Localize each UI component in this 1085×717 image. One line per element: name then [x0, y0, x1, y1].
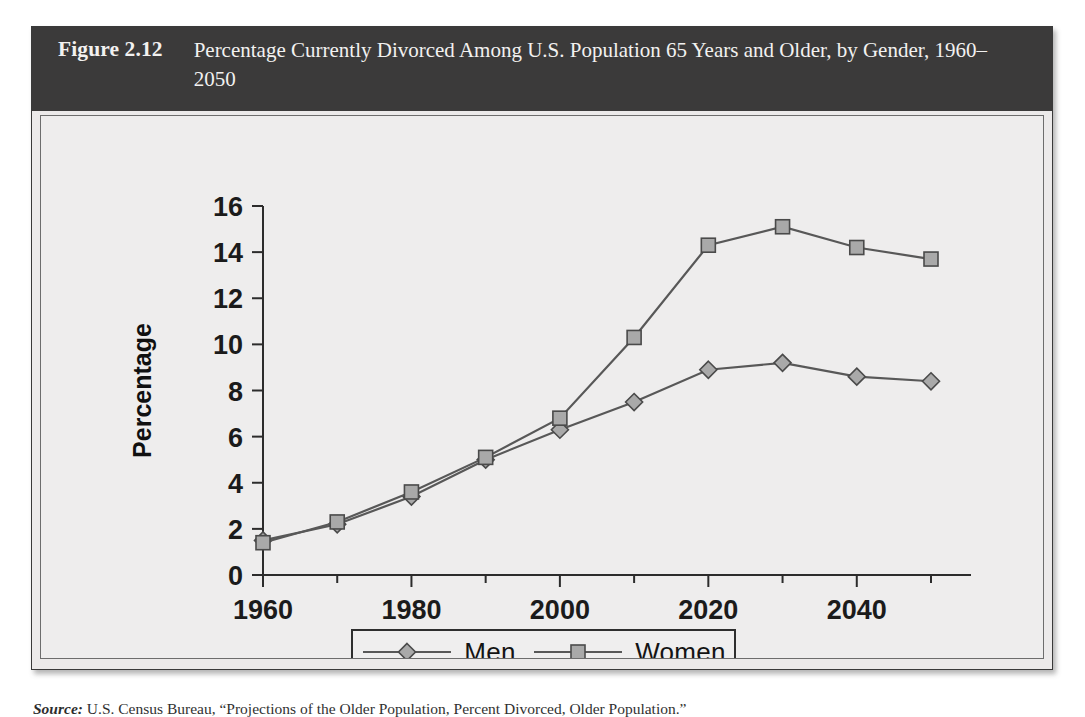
source-caption: Source: U.S. Census Bureau, “Projections…	[33, 700, 1043, 717]
y-axis-title: Percentage	[128, 323, 156, 458]
figure-container: Figure 2.12 Percentage Currently Divorce…	[31, 26, 1053, 670]
y-tick-label: 16	[213, 192, 243, 222]
line-chart-svg: 024681012141619601980200020202040Percent…	[41, 116, 1044, 659]
x-tick-label: 2040	[827, 595, 887, 625]
series-line-women	[263, 227, 931, 543]
source-caption-text: U.S. Census Bureau, “Projections of the …	[87, 700, 687, 717]
y-tick-label: 0	[228, 561, 243, 591]
x-tick-label: 1980	[381, 595, 441, 625]
series-line-men	[263, 363, 931, 541]
y-tick-label: 10	[213, 330, 243, 360]
y-tick-label: 14	[213, 238, 243, 268]
data-point-men-2010	[626, 394, 643, 411]
data-point-men-2050	[923, 373, 940, 390]
x-tick-label: 1960	[233, 595, 293, 625]
data-point-women-2040	[850, 241, 864, 255]
x-tick-label: 2020	[678, 595, 738, 625]
data-point-men-2040	[848, 368, 865, 385]
chart-panel: 024681012141619601980200020202040Percent…	[40, 115, 1044, 659]
y-tick-label: 6	[228, 423, 243, 453]
x-tick-label: 2000	[530, 595, 590, 625]
legend-entry-women: Women	[532, 637, 726, 660]
data-point-women-2010	[627, 330, 641, 344]
figure-title-text: Percentage Currently Divorced Among U.S.…	[194, 36, 994, 94]
data-point-women-1990	[479, 450, 493, 464]
figure-title-bar: Figure 2.12 Percentage Currently Divorce…	[32, 27, 1052, 111]
y-tick-label: 4	[228, 469, 243, 499]
figure-number-label: Figure 2.12	[58, 36, 163, 62]
data-point-women-1960	[256, 536, 270, 550]
legend-entry-men: Men	[361, 637, 515, 660]
legend-label-men: Men	[464, 637, 515, 660]
y-tick-label: 12	[213, 284, 243, 314]
data-point-women-1980	[404, 485, 418, 499]
data-point-men-2020	[700, 361, 717, 378]
data-point-women-2050	[924, 252, 938, 266]
legend-label-women: Women	[635, 637, 726, 660]
square-marker-icon	[532, 639, 624, 659]
data-point-women-2000	[553, 411, 567, 425]
data-point-women-1970	[330, 515, 344, 529]
chart-plot-area: 024681012141619601980200020202040Percent…	[41, 116, 1044, 659]
data-point-men-2030	[774, 354, 791, 371]
data-point-women-2020	[701, 238, 715, 252]
title-row: Figure 2.12 Percentage Currently Divorce…	[58, 36, 1026, 94]
y-tick-label: 8	[228, 377, 243, 407]
data-point-women-2030	[776, 220, 790, 234]
source-caption-label: Source:	[33, 700, 83, 717]
y-tick-label: 2	[228, 515, 243, 545]
diamond-marker-icon	[361, 639, 453, 659]
chart-legend: Men Women	[351, 629, 736, 659]
